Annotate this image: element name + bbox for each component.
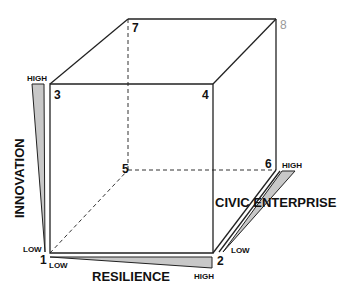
innovation-high-label: HIGH: [27, 74, 47, 83]
vertex-label-6: 6: [265, 157, 272, 171]
vertex-label-7: 7: [132, 21, 139, 35]
vertex-label-2: 2: [217, 254, 224, 268]
edge-3-7: [50, 19, 128, 84]
resilience-wedge: [50, 257, 212, 268]
cube-diagram: 1 2 3 4 5 6 7 8 HIGH LOW INNOVATION LOW …: [0, 0, 341, 295]
vertex-label-8: 8: [280, 18, 287, 32]
innovation-axis-label: INNOVATION: [12, 138, 27, 218]
civic-enterprise-low-label: LOW: [231, 246, 250, 255]
edge-2-6: [213, 170, 276, 253]
vertex-label-5: 5: [122, 162, 129, 176]
resilience-axis-label: RESILIENCE: [92, 269, 170, 284]
innovation-wedge: [32, 84, 45, 252]
civic-enterprise-guide-line: [219, 171, 280, 252]
edge-1-5: [50, 170, 128, 253]
civic-enterprise-axis-label: CIVIC ENTERPRISE: [215, 195, 337, 210]
resilience-low-label: LOW: [49, 261, 68, 270]
vertex-label-1: 1: [40, 253, 47, 267]
edge-4-8: [213, 19, 276, 84]
civic-enterprise-wedge: [223, 171, 295, 252]
resilience-high-label: HIGH: [194, 272, 214, 281]
innovation-low-label: LOW: [23, 245, 42, 254]
vertex-label-3: 3: [54, 88, 61, 102]
vertex-label-4: 4: [202, 88, 209, 102]
civic-enterprise-high-label: HIGH: [282, 161, 302, 170]
